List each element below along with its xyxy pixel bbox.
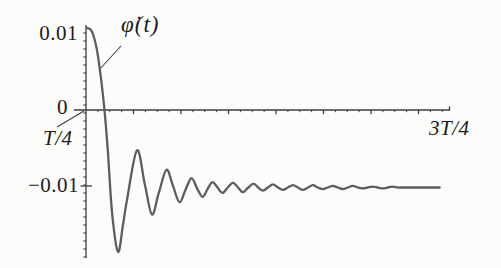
y-axis-label-001: 0.01 <box>20 22 78 44</box>
figure-phi-dot-plot: φ̇(t) 0.01 0 T/4 −0.01 3T/4 <box>0 0 501 268</box>
phi-dot-curve <box>87 28 440 252</box>
x-axis-label-t-quarter: T/4 <box>43 127 73 149</box>
origin-zero-label: 0 <box>57 96 68 118</box>
x-axis-label-3t-quarter: 3T/4 <box>429 117 470 139</box>
y-axis-label-minus-001: −0.01 <box>20 174 79 196</box>
curve-label-leader-line <box>99 46 121 70</box>
curve-label: φ̇(t) <box>121 12 159 38</box>
